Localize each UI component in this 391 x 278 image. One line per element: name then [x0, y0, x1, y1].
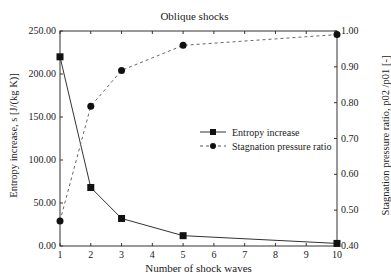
legend-entry-pressure: Stagnation pressure ratio — [200, 139, 331, 153]
data-point — [118, 215, 125, 222]
x-tick-label: 3 — [119, 249, 124, 260]
data-point — [180, 42, 187, 49]
data-point — [334, 31, 341, 38]
y-axis-right-label: Stagnation pressure ratio, p02 /p01 [-] — [380, 31, 391, 241]
y2-tick-label: 0.80 — [341, 97, 359, 108]
y2-tick-label: 0.50 — [341, 204, 359, 215]
x-tick-label: 6 — [211, 249, 216, 260]
y2-tick-label: 0.90 — [341, 61, 359, 72]
legend-entry-entropy: Entropy increase — [200, 125, 331, 139]
y-tick-label: 50.00 — [34, 197, 57, 208]
data-point — [87, 103, 94, 110]
square-marker-icon — [200, 127, 226, 137]
data-point — [87, 184, 94, 191]
data-point — [180, 232, 187, 239]
y-tick-label: 150.00 — [29, 111, 57, 122]
y2-tick-label: 0.60 — [341, 168, 359, 179]
y2-tick-label: 0.40 — [341, 240, 359, 251]
y-tick-label: 0.00 — [39, 240, 57, 251]
y-tick-label: 250.00 — [29, 25, 57, 36]
data-point — [57, 53, 64, 60]
legend: Entropy increase Stagnation pressure rat… — [200, 125, 331, 153]
y-tick-label: 200.00 — [29, 68, 57, 79]
legend-label-entropy: Entropy increase — [232, 127, 299, 138]
circle-marker-icon — [200, 141, 226, 151]
x-tick-label: 7 — [242, 249, 247, 260]
x-tick-label: 4 — [150, 249, 155, 260]
x-axis-label: Number of shock waves — [60, 262, 337, 274]
x-tick-label: 5 — [181, 249, 186, 260]
data-point — [118, 67, 125, 74]
legend-label-pressure: Stagnation pressure ratio — [232, 141, 331, 152]
y2-tick-label: 1.00 — [341, 25, 359, 36]
x-tick-label: 8 — [273, 249, 278, 260]
data-point — [57, 217, 64, 224]
x-tick-label: 2 — [88, 249, 93, 260]
y-axis-left-label: Entropy increase, s [J/(kg K)] — [8, 31, 19, 241]
y2-tick-label: 0.70 — [341, 133, 359, 144]
x-tick-label: 9 — [304, 249, 309, 260]
data-point — [334, 240, 341, 247]
x-tick-label: 1 — [58, 249, 63, 260]
y-tick-label: 100.00 — [29, 154, 57, 165]
